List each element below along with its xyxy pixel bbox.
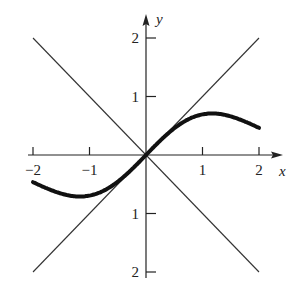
y-tick-label: 2: [132, 264, 140, 280]
x-tick-label: −1: [82, 162, 98, 178]
y-tick-label: 1: [132, 206, 140, 222]
function-plot: −2−1122112xy: [0, 0, 302, 298]
y-tick-label: 2: [132, 30, 140, 46]
y-axis-label: y: [154, 11, 163, 27]
x-tick-label: 1: [199, 162, 207, 178]
x-tick-label: 2: [255, 162, 263, 178]
x-axis-label: x: [278, 163, 286, 179]
x-tick-label: −2: [25, 162, 41, 178]
y-tick-label: 1: [132, 89, 140, 105]
